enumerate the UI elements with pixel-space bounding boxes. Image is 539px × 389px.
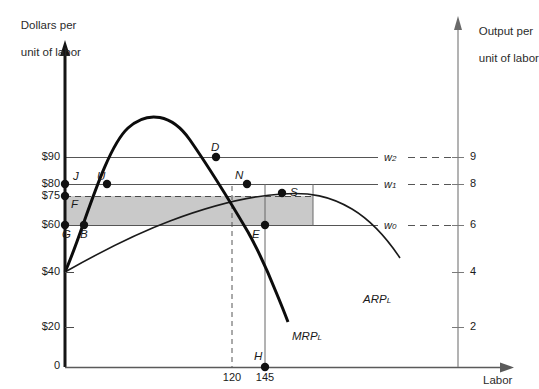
y2-tick-label-6: 6 [470, 218, 476, 231]
point-marker-N [243, 180, 251, 188]
wage-label-w2-text: w [384, 151, 392, 163]
y2-tick-label-4: 4 [470, 265, 476, 278]
wage-bill-rectangle [65, 196, 313, 225]
wage-label-w0: w0 [384, 219, 396, 232]
point-marker-F [61, 192, 69, 200]
y-tick-label-40: $40 [24, 265, 60, 278]
left-axis-title-line1: Dollars per [21, 19, 77, 31]
point-marker-E [261, 221, 269, 229]
y2-tick-label-9: 9 [470, 150, 476, 163]
curve-label-arp-l: ARPL [363, 293, 391, 307]
point-label-H: H [254, 350, 262, 364]
x-axis-title: Labor [483, 374, 512, 388]
y-tick-label-60: $60 [24, 218, 60, 231]
point-label-S: S [290, 186, 298, 200]
y-tick-label-90: $90 [24, 150, 60, 163]
y-tick-label-75: $75 [24, 189, 60, 202]
right-axis-title: Output per unit of labor [466, 11, 539, 79]
point-label-E: E [252, 228, 260, 242]
curve-label-mrp-l: MRPL [292, 330, 322, 344]
wage-label-w2: w2 [384, 151, 396, 164]
point-marker-H [261, 363, 269, 371]
point-marker-J [61, 180, 69, 188]
point-label-U: U [97, 170, 105, 184]
curve-label-mrp-sub: L [318, 333, 322, 342]
y-tick-label-0: 0 [24, 359, 60, 372]
left-axis-title-line2: unit of labor [21, 46, 81, 58]
wage-label-w0-sub: 0 [392, 222, 396, 231]
y2-tick-label-2: 2 [470, 320, 476, 333]
point-label-J: J [73, 170, 79, 184]
wage-label-w1-text: w [384, 178, 392, 190]
right-axis-title-line1: Output per [479, 25, 533, 37]
point-marker-S [278, 189, 286, 197]
wage-label-w0-text: w [384, 219, 392, 231]
curve-label-mrp-text: MRP [292, 330, 318, 342]
x-tick-label-145: 145 [245, 371, 285, 384]
point-label-B: B [80, 228, 88, 242]
curve-label-arp-sub: L [387, 296, 391, 305]
y2-tick-label-8: 8 [470, 177, 476, 190]
x-axis-arrow-icon [500, 363, 514, 373]
right-axis-title-line2: unit of labor [479, 52, 539, 64]
point-label-F: F [71, 198, 78, 212]
wage-label-w2-sub: 2 [392, 154, 396, 163]
right-axis-arrow-icon [454, 16, 462, 30]
point-label-D: D [211, 141, 219, 155]
wage-label-w1-sub: 1 [392, 181, 396, 190]
left-axis-title: Dollars per unit of labor [8, 5, 81, 73]
point-label-N: N [235, 169, 243, 183]
y-tick-label-20: $20 [24, 320, 60, 333]
point-label-G: G [62, 228, 71, 242]
curve-label-arp-text: ARP [363, 293, 387, 305]
wage-label-w1: w1 [384, 178, 396, 191]
